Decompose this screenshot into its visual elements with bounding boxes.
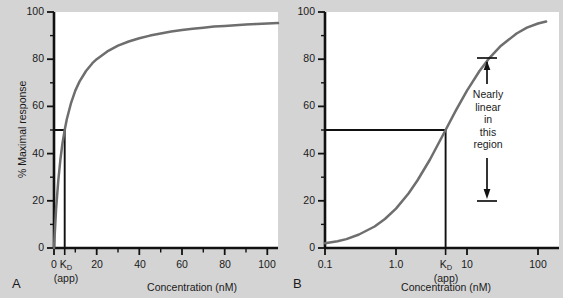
panel-a-y-axis-title: % Maximal response <box>16 81 28 178</box>
panel-b-y-ticklabel-0: 0 <box>289 241 315 253</box>
panel-b-annotation: Nearly linear in this region <box>459 88 517 151</box>
panel-a-y-ticklabel-20: 20 <box>18 194 44 206</box>
panel-b-annotation-line-5: region <box>459 138 517 151</box>
panel-b-annotation-line-4: this <box>459 126 517 139</box>
panel-b-y-ticklabel-40: 40 <box>289 147 315 159</box>
panel-b-x-axis-title: Concentration (nM) <box>376 281 516 293</box>
panel-b-y-ticklabel-60: 60 <box>289 99 315 111</box>
panel-b-annotation-line-2: linear <box>459 101 517 114</box>
panel-b-guide-lines <box>325 130 446 248</box>
panel-b-graphics <box>281 0 563 298</box>
panel-a-y-ticklabel-80: 80 <box>18 52 44 64</box>
panel-b-annotation-line-3: in <box>459 113 517 126</box>
panel-a-y-ticklabel-100: 100 <box>14 5 44 17</box>
panel-b-kd-subscript: D <box>447 263 452 272</box>
panel-a-x-ticklabel-20: 20 <box>84 258 110 270</box>
panel-b-y-ticklabel-100: 100 <box>285 5 315 17</box>
panel-b-kd-ticklabel: KD <box>434 258 458 272</box>
panel-a: 0 20 40 60 80 100 0 20 40 60 80 100 KD (… <box>0 0 281 298</box>
panel-a-letter: A <box>12 276 21 291</box>
panel-a-kd-ticklabel: KD <box>54 258 78 272</box>
panel-a-curve <box>54 23 278 248</box>
panel-b-x-ticklabel-100: 100 <box>524 258 552 270</box>
panel-b-kd-symbol: K <box>440 258 447 270</box>
panel-a-kd-app-label: (app) <box>49 272 83 284</box>
figure-dose-response: 0 20 40 60 80 100 0 20 40 60 80 100 KD (… <box>0 0 563 298</box>
panel-b-x-ticklabel-1-0: 1.0 <box>382 258 410 270</box>
panel-a-x-ticklabel-40: 40 <box>127 258 153 270</box>
panel-a-kd-subscript: D <box>67 263 72 272</box>
panel-b-letter: B <box>293 276 302 291</box>
panel-a-x-axis-title: Concentration (nM) <box>122 281 262 293</box>
panel-b: 0 20 40 60 80 100 0.1 1.0 10 100 KD (app… <box>281 0 563 298</box>
panel-a-x-ticklabel-60: 60 <box>169 258 195 270</box>
panel-b-y-ticklabel-20: 20 <box>289 194 315 206</box>
panel-a-kd-symbol: K <box>60 258 67 270</box>
panel-b-x-ticklabel-0-1: 0.1 <box>311 258 339 270</box>
panel-a-y-ticklabel-0: 0 <box>18 241 44 253</box>
panel-a-x-ticklabel-100: 100 <box>253 258 281 270</box>
panel-b-y-ticklabel-80: 80 <box>289 52 315 64</box>
panel-b-annotation-line-1: Nearly <box>459 88 517 101</box>
panel-a-x-ticklabel-80: 80 <box>212 258 238 270</box>
